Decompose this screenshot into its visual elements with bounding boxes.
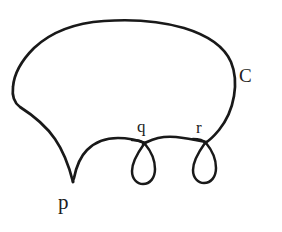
label-r: r <box>196 119 202 136</box>
main-curve-outline <box>13 20 236 182</box>
arc-between-loops <box>143 137 206 144</box>
label-c: C <box>239 66 252 85</box>
label-p: p <box>58 192 69 213</box>
loop-q <box>132 140 155 184</box>
label-q: q <box>137 118 146 135</box>
loop-r <box>193 139 216 183</box>
curve-drawing <box>0 0 282 232</box>
figure-canvas: p q r C <box>0 0 282 232</box>
